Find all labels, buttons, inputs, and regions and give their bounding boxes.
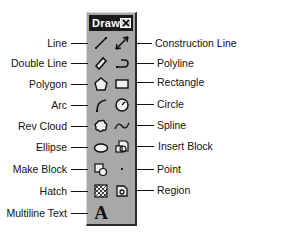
polyline-icon — [114, 55, 130, 71]
leader-line — [71, 43, 88, 44]
leader-ellipse — [71, 147, 88, 148]
leader-make-block — [71, 169, 88, 170]
label-polygon: Polygon — [29, 78, 67, 90]
label-rectangle: Rectangle — [157, 76, 204, 88]
circle-icon — [114, 97, 130, 113]
leader-rev-cloud — [71, 126, 88, 127]
point-button[interactable] — [113, 160, 131, 178]
polygon-button[interactable] — [92, 75, 110, 93]
hatch-icon — [93, 183, 109, 199]
label-region: Region — [157, 184, 190, 196]
leader-region — [137, 190, 154, 191]
toolbar-title: Draw — [92, 17, 120, 29]
line-icon — [93, 35, 109, 51]
multiline-text-button[interactable]: A — [92, 203, 110, 223]
leader-circle — [137, 104, 154, 105]
label-multiline-text: Multiline Text — [7, 207, 68, 219]
label-insert-block: Insert Block — [158, 140, 213, 152]
leader-spline — [137, 125, 154, 126]
label-ellipse: Ellipse — [36, 141, 67, 153]
polyline-button[interactable] — [113, 54, 131, 72]
label-rev-cloud: Rev Cloud — [18, 120, 67, 132]
leader-polyline — [137, 63, 154, 64]
label-line: Line — [47, 37, 67, 49]
label-hatch: Hatch — [40, 185, 67, 197]
point-icon — [114, 161, 130, 177]
multiline-text-icon: A — [94, 203, 108, 223]
line-button[interactable] — [92, 34, 110, 52]
label-construction-line: Construction Line — [155, 37, 237, 49]
toolbar-titlebar[interactable]: Draw — [89, 15, 133, 31]
circle-button[interactable] — [113, 96, 131, 114]
region-icon — [114, 183, 130, 199]
construction-line-icon — [114, 35, 130, 51]
spline-icon — [114, 118, 130, 134]
label-point: Point — [157, 163, 181, 175]
arc-icon — [93, 97, 109, 113]
rev-cloud-icon — [93, 118, 109, 134]
ellipse-button[interactable] — [92, 138, 110, 156]
leader-point — [137, 169, 154, 170]
label-make-block: Make Block — [13, 163, 67, 175]
construction-line-button[interactable] — [113, 34, 131, 52]
polygon-icon — [93, 76, 109, 92]
arc-button[interactable] — [92, 96, 110, 114]
double-line-icon — [93, 55, 109, 71]
leader-construction-line — [137, 43, 152, 44]
label-spline: Spline — [157, 119, 186, 131]
rectangle-icon — [114, 76, 130, 92]
leader-double-line — [71, 63, 88, 64]
insert-block-icon — [114, 139, 130, 155]
spline-button[interactable] — [113, 117, 131, 135]
leader-arc — [71, 105, 88, 106]
label-double-line: Double Line — [11, 57, 67, 69]
insert-block-button[interactable] — [113, 138, 131, 156]
leader-rectangle — [137, 82, 154, 83]
region-button[interactable] — [113, 182, 131, 200]
rectangle-button[interactable] — [113, 75, 131, 93]
leader-multiline-text — [71, 213, 88, 214]
leader-polygon — [71, 84, 88, 85]
leader-hatch — [71, 191, 88, 192]
close-icon — [122, 19, 130, 27]
label-polyline: Polyline — [157, 57, 194, 69]
close-button[interactable] — [120, 18, 131, 28]
make-block-icon — [93, 161, 109, 177]
leader-insert-block — [137, 146, 154, 147]
ellipse-icon — [93, 139, 109, 155]
hatch-button[interactable] — [92, 182, 110, 200]
make-block-button[interactable] — [92, 160, 110, 178]
label-arc: Arc — [51, 99, 67, 111]
rev-cloud-button[interactable] — [92, 117, 110, 135]
label-circle: Circle — [157, 98, 184, 110]
double-line-button[interactable] — [92, 54, 110, 72]
